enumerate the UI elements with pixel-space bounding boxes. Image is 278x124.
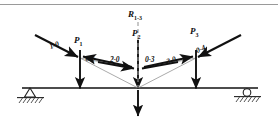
label-ray-2-0: 2-0 [110, 56, 119, 64]
label-ray-0-3: 0-3 [145, 56, 154, 64]
pin-support [17, 88, 44, 103]
label-R13: R1-3 [128, 10, 142, 21]
label-P1: P1 [74, 36, 83, 47]
label-P2: P2 [132, 29, 141, 40]
label-P3: P3 [190, 27, 199, 38]
label-ray-0-2: 0-2 [85, 55, 96, 64]
roller-support [234, 89, 261, 102]
funicular-polygon-figure: P1 P2 P3 R1-3 1-0 0-2 2-0 0-3 3-0 0-4 [0, 0, 278, 124]
